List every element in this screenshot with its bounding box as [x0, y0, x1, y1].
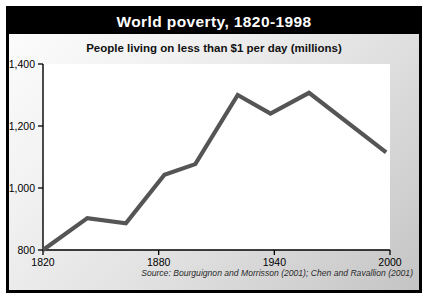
y-axis-label: 1,400	[9, 58, 35, 70]
x-axis-label: 1820	[31, 256, 55, 268]
poverty-line-series	[43, 93, 386, 250]
chart-figure: World poverty, 1820-1998 People living o…	[0, 0, 428, 299]
chart-canvas: 8001,0001,2001,400 1820188019402000	[0, 0, 428, 299]
x-axis-label: 1940	[263, 256, 287, 268]
x-axis-label: 1880	[147, 256, 171, 268]
x-axis-label: 2000	[378, 256, 402, 268]
y-axis-label: 800	[17, 244, 35, 256]
y-axis-label: 1,200	[9, 120, 35, 132]
y-axis-label: 1,000	[9, 182, 35, 194]
source-note: Source: Bourguignon and Morrisson (2001)…	[9, 268, 413, 278]
y-axis-ticks: 8001,0001,2001,400	[9, 58, 43, 256]
axis-lines	[43, 64, 390, 250]
x-axis-ticks: 1820188019402000	[31, 250, 402, 268]
